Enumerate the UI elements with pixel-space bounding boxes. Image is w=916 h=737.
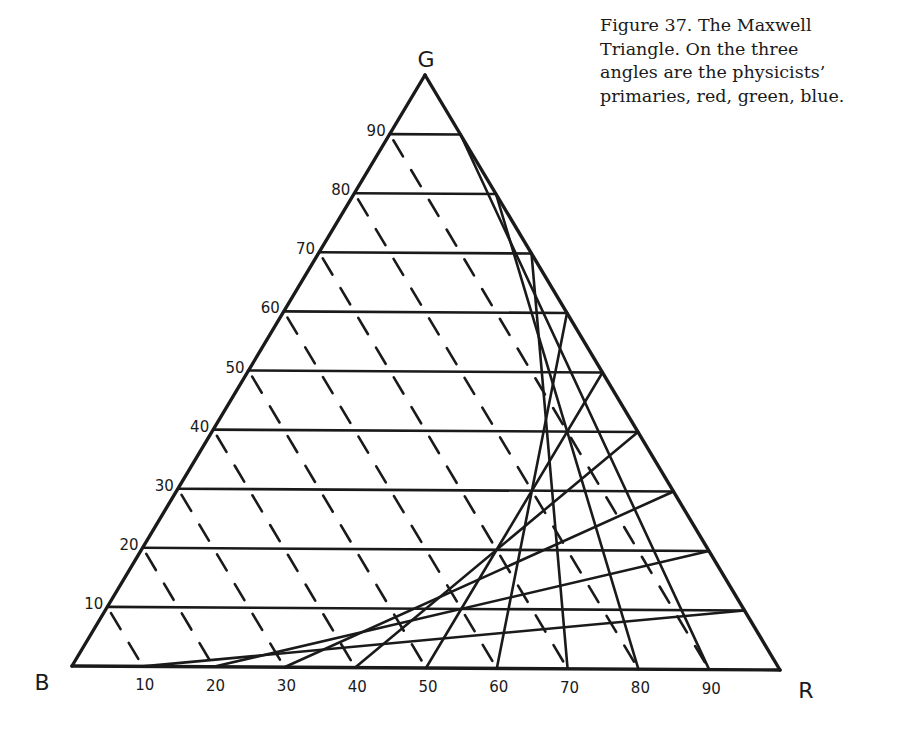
left-axis-tick-label: 10 xyxy=(84,595,103,613)
bottom-axis-tick-label: 10 xyxy=(135,676,154,694)
grid-line-dashed-diagonal xyxy=(249,371,427,669)
grid-line-solid-diagonal xyxy=(426,373,603,669)
left-axis-tick-label: 50 xyxy=(225,359,244,377)
bottom-axis-tick-label: 60 xyxy=(489,678,508,696)
vertex-label-red: R xyxy=(798,678,813,703)
grid-line-horizontal xyxy=(178,489,674,492)
grid-line-horizontal xyxy=(319,252,531,253)
grid-line-dashed-diagonal xyxy=(107,607,143,667)
grid-line-solid-diagonal xyxy=(461,135,710,670)
bottom-axis-tick-label: 90 xyxy=(702,680,721,698)
grid-line-dashed-diagonal xyxy=(178,489,285,668)
left-axis-tick-label: 70 xyxy=(296,240,315,258)
left-axis-tick-label: 40 xyxy=(190,418,209,436)
bottom-axis-tick-label: 30 xyxy=(277,677,296,695)
bottom-axis-tick-label: 20 xyxy=(206,677,225,695)
left-axis-tick-label: 60 xyxy=(261,299,280,317)
triangle-edge-bottom xyxy=(72,666,780,670)
bottom-axis-tick-label: 50 xyxy=(418,678,437,696)
grid-line-horizontal xyxy=(284,311,567,313)
left-axis-tick-label: 80 xyxy=(331,181,350,199)
bottom-axis-tick-label: 40 xyxy=(348,678,367,696)
left-axis-tick-label: 90 xyxy=(367,122,386,140)
bottom-axis-tick-label: 70 xyxy=(560,679,579,697)
left-axis-tick-label: 30 xyxy=(155,477,174,495)
vertex-label-blue: B xyxy=(34,670,49,695)
bottom-axis-tick-label: 80 xyxy=(631,679,650,697)
grid-line-horizontal xyxy=(213,430,638,432)
vertex-label-green: G xyxy=(417,47,434,72)
triangle-grid xyxy=(72,75,780,670)
grid-line-horizontal xyxy=(143,548,709,551)
left-axis-tick-label: 20 xyxy=(120,536,139,554)
grid-line-dashed-diagonal xyxy=(319,252,567,669)
maxwell-triangle: 102030405060708090102030405060708090BRG xyxy=(0,0,916,737)
